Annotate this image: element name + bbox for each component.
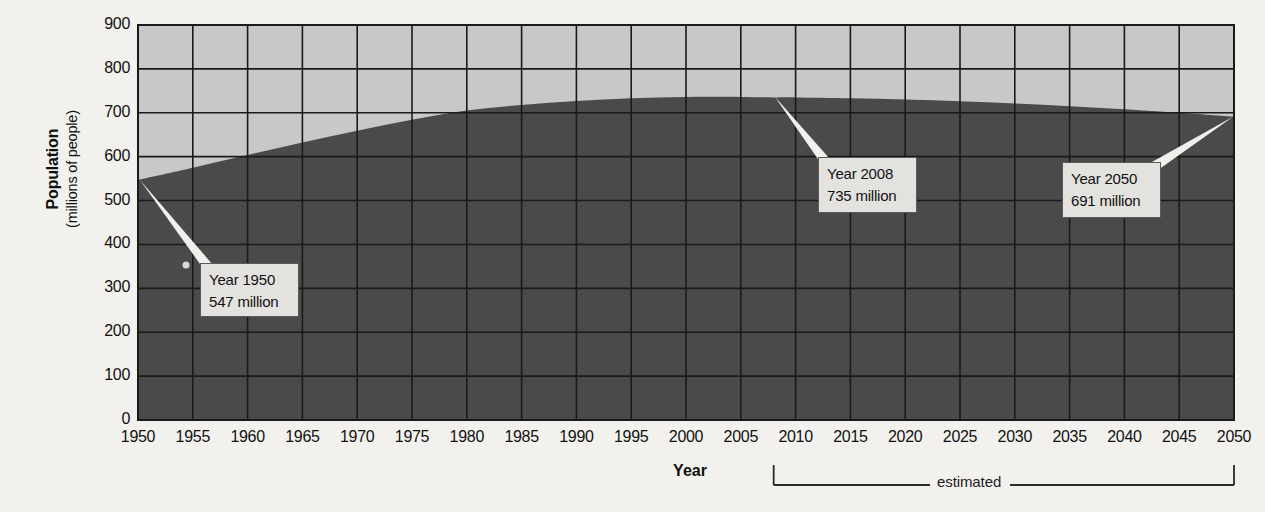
x-tick-label: 2005 — [713, 428, 769, 446]
callout-3-line-2: 691 million — [1071, 190, 1152, 212]
x-tick-label: 2000 — [658, 428, 714, 446]
x-tick-label: 2025 — [932, 428, 988, 446]
x-tick-label: 2030 — [987, 428, 1043, 446]
callout-year-1950: Year 1950 547 million — [200, 263, 299, 317]
marker-dot-icon — [183, 262, 190, 269]
x-tick-label: 2050 — [1206, 428, 1262, 446]
x-tick-label: 1990 — [548, 428, 604, 446]
x-tick-label: 2020 — [877, 428, 933, 446]
population-area-chart: Population (millions of people) 90080070… — [0, 0, 1265, 512]
estimated-bracket — [774, 465, 1234, 485]
x-tick-label: 2010 — [768, 428, 824, 446]
x-tick-label: 2045 — [1151, 428, 1207, 446]
callout-1-line-2: 547 million — [209, 291, 290, 313]
x-axis-title: Year — [640, 462, 740, 480]
x-tick-label: 1980 — [439, 428, 495, 446]
estimated-label: estimated — [937, 473, 1001, 490]
callout-2-line-1: Year 2008 — [827, 163, 908, 185]
callout-2-line-2: 735 million — [827, 185, 908, 207]
callout-year-2008: Year 2008 735 million — [818, 157, 917, 213]
x-tick-label: 2040 — [1096, 428, 1152, 446]
callout-1-line-1: Year 1950 — [209, 269, 290, 291]
x-tick-label: 1995 — [603, 428, 659, 446]
x-tick-label: 2035 — [1042, 428, 1098, 446]
gridlines — [138, 25, 1234, 420]
x-tick-label: 1950 — [110, 428, 166, 446]
x-tick-label: 1960 — [220, 428, 276, 446]
callout-3-line-1: Year 2050 — [1071, 168, 1152, 190]
x-tick-label: 1970 — [329, 428, 385, 446]
x-tick-label: 1985 — [494, 428, 550, 446]
callout-year-2050: Year 2050 691 million — [1062, 162, 1161, 218]
x-tick-label: 1955 — [165, 428, 221, 446]
x-tick-label: 1965 — [274, 428, 330, 446]
x-tick-label: 1975 — [384, 428, 440, 446]
x-tick-label: 2015 — [822, 428, 878, 446]
